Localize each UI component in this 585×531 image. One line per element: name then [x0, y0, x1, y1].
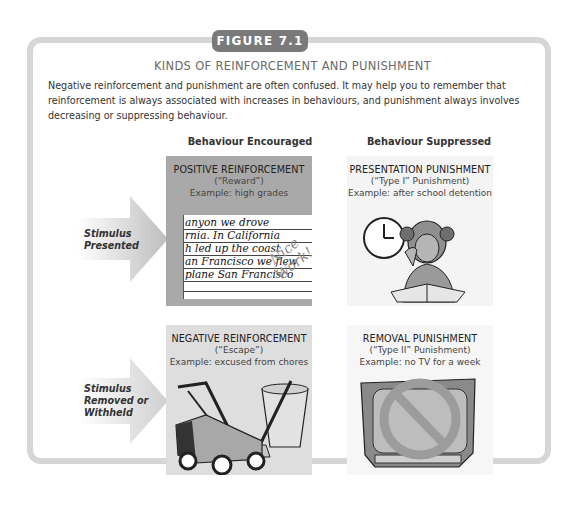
card-negative-reinforcement: NEGATIVE REINFORCEMENT (“Escape”) Exampl… — [166, 325, 312, 475]
row-label-stimulus-removed: Stimulus Removed or Withheld — [78, 358, 168, 444]
card-nickname: (“Type II” Punishment) — [347, 344, 493, 356]
lawnmower-trash-can-icon — [166, 375, 312, 475]
card-nickname: (“Reward”) — [166, 175, 312, 187]
card-presentation-punishment: PRESENTATION PUNISHMENT (“Type I” Punish… — [347, 156, 493, 306]
card-heading: REMOVAL PUNISHMENT — [347, 333, 493, 344]
row-label-stimulus-presented: Stimulus Presented — [78, 196, 168, 282]
card-heading: NEGATIVE REINFORCEMENT — [166, 333, 312, 344]
card-nickname: (“Escape”) — [166, 344, 312, 356]
card-example: Example: high grades — [166, 187, 312, 199]
card-heading: PRESENTATION PUNISHMENT — [347, 164, 493, 175]
card-removal-punishment: REMOVAL PUNISHMENT (“Type II” Punishment… — [347, 325, 493, 475]
handwritten-paper-illustration: anyon we drove rnia. In California h led… — [183, 215, 312, 299]
card-example: Example: after school detention — [347, 187, 493, 199]
card-nickname: (“Type I” Punishment) — [347, 175, 493, 187]
card-heading: POSITIVE REINFORCEMENT — [166, 164, 312, 175]
column-header-encouraged: Behaviour Encouraged — [165, 136, 335, 147]
tv-prohibited-icon — [347, 375, 493, 475]
figure-tab: FIGURE 7.1 — [212, 30, 308, 52]
card-example: Example: excused from chores — [166, 356, 312, 368]
figure-intro: Negative reinforcement and punishment ar… — [48, 78, 548, 123]
card-example: Example: no TV for a week — [347, 356, 493, 368]
column-header-suppressed: Behaviour Suppressed — [344, 136, 514, 147]
figure-title: KINDS OF REINFORCEMENT AND PUNISHMENT — [0, 59, 585, 73]
girl-studying-clock-icon — [347, 206, 493, 306]
card-positive-reinforcement: POSITIVE REINFORCEMENT (“Reward”) Exampl… — [166, 156, 312, 306]
